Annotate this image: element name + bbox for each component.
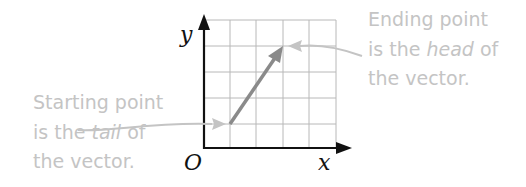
vector-diagram: y O x Starting point is the tail of the … <box>0 0 526 187</box>
x-axis-label: x <box>318 150 330 175</box>
origin-label: O <box>184 150 202 175</box>
grid <box>204 20 336 148</box>
tail-caption: Starting point is the tail of the vector… <box>33 88 163 177</box>
head-caption: Ending point is the head of the vector. <box>368 5 498 94</box>
y-axis-label: y <box>180 22 192 47</box>
axes <box>198 14 352 154</box>
